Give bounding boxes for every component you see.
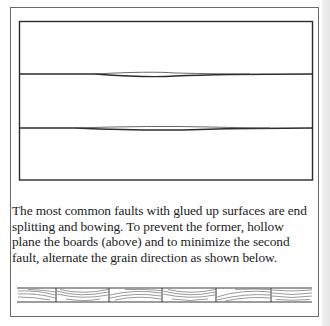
alternating-grain-diagram: [17, 288, 312, 302]
hollow-planed-boards-diagram: [20, 22, 313, 181]
glued-boards-illustration: [0, 0, 330, 326]
figure-caption: The most common faults with glued up sur…: [12, 203, 312, 265]
